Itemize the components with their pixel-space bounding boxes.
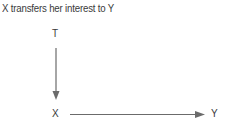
arrow-t-to-x [53, 48, 60, 100]
diagram-arrows [0, 0, 226, 122]
arrow-x-to-y [70, 111, 205, 118]
